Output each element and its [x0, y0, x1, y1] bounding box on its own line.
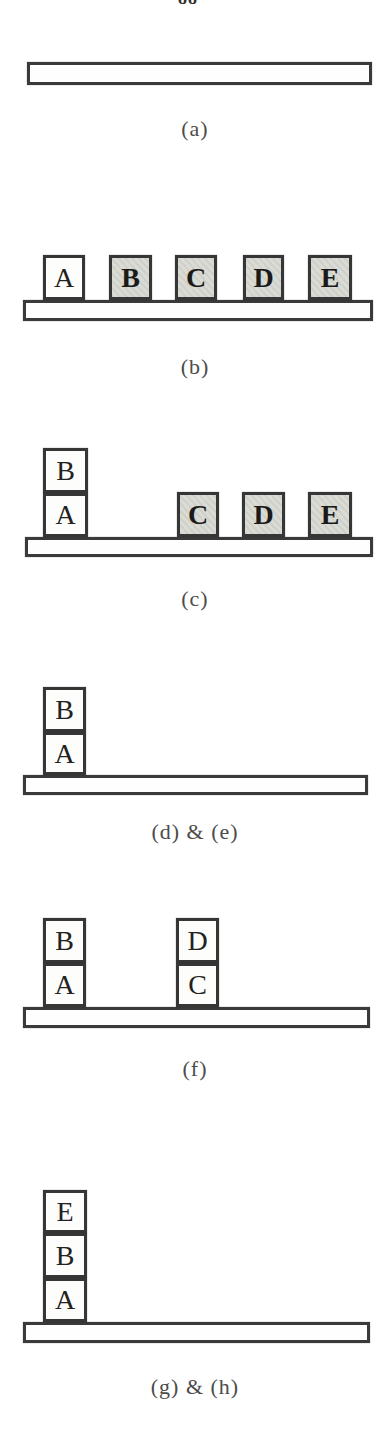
block-letter: B: [55, 696, 74, 724]
table-surface-b: [23, 300, 373, 321]
block-b-f: B: [43, 918, 86, 963]
caption-c: (c): [0, 586, 390, 612]
caption-a: (a): [0, 116, 390, 142]
block-a-d-e: A: [43, 732, 86, 775]
block-b-g-h: B: [43, 1233, 87, 1278]
table-surface-d-e: [23, 775, 368, 795]
block-a-f: A: [43, 963, 86, 1007]
block-a-c: A: [43, 493, 88, 537]
block-letter: E: [56, 1198, 73, 1226]
block-d-c: D: [242, 492, 285, 537]
block-a-g-h: A: [43, 1278, 87, 1322]
caption-d-e: (d) & (e): [0, 819, 390, 845]
block-letter: D: [253, 264, 273, 292]
table-surface-f: [23, 1007, 370, 1028]
block-e-b: E: [308, 255, 352, 300]
block-letter: D: [187, 927, 207, 955]
page-number: 88: [171, 0, 205, 9]
table-surface-c: [25, 537, 373, 557]
block-letter: A: [55, 501, 75, 529]
block-letter: B: [121, 264, 140, 292]
block-letter: A: [55, 1286, 75, 1314]
block-letter: C: [188, 501, 208, 529]
block-letter: E: [321, 264, 340, 292]
table-surface-g-h: [23, 1322, 370, 1343]
table-surface-a: [27, 62, 372, 85]
block-d-b: D: [243, 255, 284, 300]
block-c-f: C: [176, 963, 219, 1007]
block-letter: D: [253, 501, 273, 529]
caption-b: (b): [0, 354, 390, 380]
caption-f: (f): [0, 1056, 390, 1082]
block-letter: A: [54, 971, 74, 999]
block-letter: A: [54, 264, 74, 292]
block-a-b: A: [43, 255, 85, 300]
block-e-g-h: E: [43, 1190, 87, 1233]
block-d-f: D: [176, 918, 219, 963]
block-b-c: B: [43, 448, 88, 493]
block-letter: E: [321, 501, 340, 529]
block-b-b: B: [109, 255, 152, 300]
block-c-b: C: [175, 255, 217, 300]
block-c-c: C: [177, 492, 219, 537]
block-letter: B: [55, 927, 74, 955]
block-letter: B: [56, 1242, 75, 1270]
block-letter: C: [186, 264, 206, 292]
scanned-figure-page: 88 (a)ABCDE(b)BACDE(c)BA(d) & (e)BADC(f)…: [0, 0, 390, 1436]
caption-g-h: (g) & (h): [0, 1374, 390, 1400]
block-letter: B: [56, 457, 75, 485]
block-letter: C: [188, 971, 207, 999]
block-e-c: E: [308, 492, 352, 537]
block-b-d-e: B: [43, 687, 86, 732]
block-letter: A: [54, 740, 74, 768]
